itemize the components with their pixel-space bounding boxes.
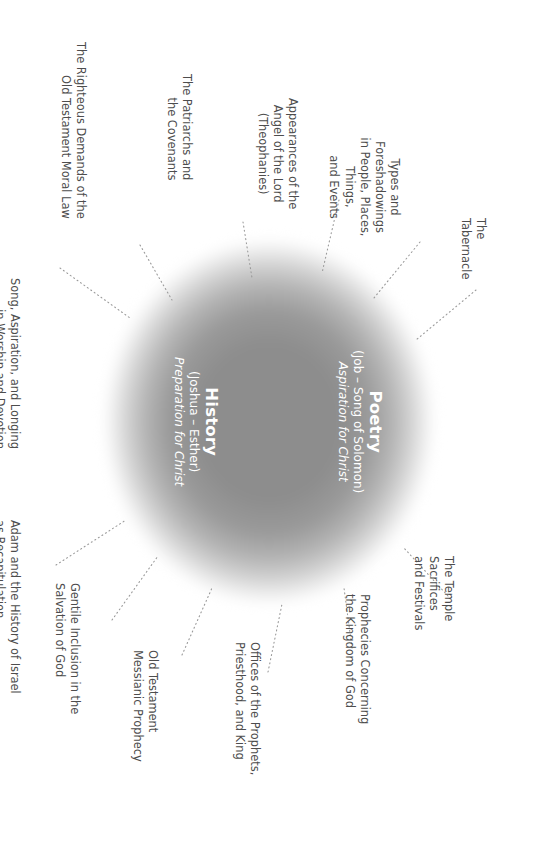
center-sections: The Law (Genesis – Deuteronomy) Foundati…: [88, 222, 450, 622]
section-role: Aspiration for Christ: [336, 350, 351, 493]
section-poetry: Poetry (Job – Song of Solomon) Aspiratio…: [336, 350, 385, 493]
label-patriarchs-covenants: The Patriarchs and the Covenants: [164, 74, 194, 180]
label-song-aspiration: Song, Aspiration, and Longing in Worship…: [0, 278, 22, 449]
section-title: History: [201, 357, 221, 486]
label-righteous-demands: The Righteous Demands of the Old Testame…: [58, 42, 88, 219]
label-gentile-inclusion: Gentile Inclusion in the Salvation of Go…: [52, 583, 82, 714]
diagram-canvas: The Law (Genesis – Deuteronomy) Foundati…: [0, 0, 540, 844]
section-range: (Job – Song of Solomon): [351, 350, 366, 493]
label-types-foreshadowings: Types and Foreshadowings in People, Plac…: [326, 118, 402, 256]
label-kingdom-prophecies: Prophecies Concerning the Kingdom of God: [342, 594, 372, 724]
label-messianic-prophecy: Old Testament Messianic Prophecy: [130, 650, 160, 762]
section-prophecy: Prophecy (Isaiah – Malachi) Expectation …: [499, 359, 540, 485]
section-range: (Isaiah – Malachi): [513, 359, 528, 485]
label-offices: Offices of the Prophets, Priesthood, and…: [232, 642, 262, 775]
section-role: Preparation for Christ: [172, 357, 187, 486]
label-adam-recapitulation: Adam and the History of Israel as Recapi…: [0, 520, 22, 694]
section-range: (Joshua – Esther): [187, 357, 202, 486]
section-role: Expectation of Christ: [499, 359, 514, 485]
label-angel-of-the-lord: Appearances of the Angel of the Lord (Th…: [255, 98, 300, 209]
label-temple-sacrifices: The Temple Sacrifices and Festivals: [411, 556, 456, 640]
section-title: The Law: [33, 346, 53, 499]
section-title: Prophecy: [528, 359, 540, 485]
section-history: History (Joshua – Esther) Preparation fo…: [172, 357, 221, 486]
section-title: Poetry: [366, 350, 386, 493]
label-tabernacle: The Tabernacle: [458, 218, 488, 279]
